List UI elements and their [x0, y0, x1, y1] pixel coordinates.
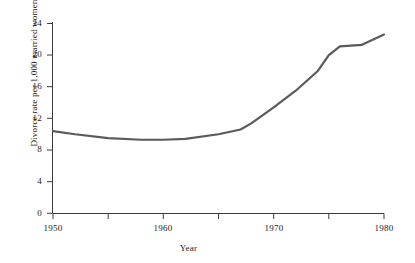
x-axis-ticks	[53, 214, 384, 220]
x-tick-label-1980: 1980	[367, 223, 401, 233]
x-tick-label-1950: 1950	[36, 223, 70, 233]
y-axis-ticks	[47, 24, 53, 214]
line-chart: 24 20 16 12 8 4 0 1950 1960 1970 1980 Di…	[0, 0, 415, 263]
x-tick-label-1970: 1970	[257, 223, 291, 233]
y-axis-title: Divorce rate per 1,000 married women	[29, 0, 39, 153]
data-series-line	[53, 35, 384, 140]
y-axis-title-wrap: Divorce rate per 1,000 married women	[14, 30, 28, 195]
y-tick-label-0: 0	[20, 208, 42, 218]
x-axis-title-text: Year	[180, 243, 197, 253]
x-axis-title: Year	[0, 243, 415, 253]
x-tick-label-1960: 1960	[146, 223, 180, 233]
